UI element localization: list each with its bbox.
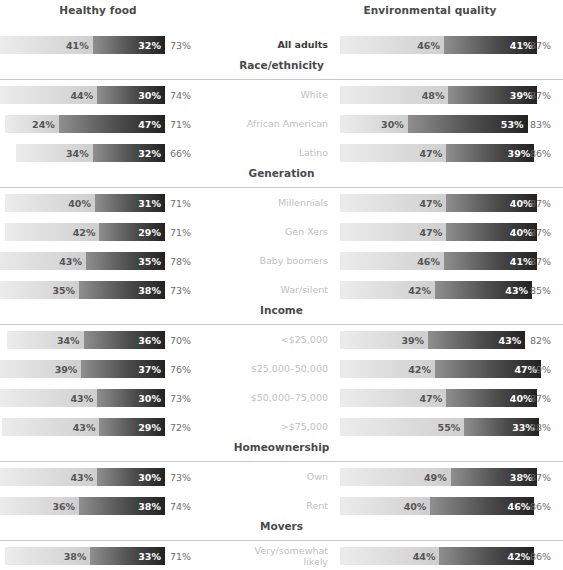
bar-segment-somewhat-important: 47% [340,144,446,162]
chart-section: Homeownership43%30%73%Own49%38%87%36%38%… [0,441,563,520]
bar-total-environmental-quality: 87% [530,223,551,241]
bar-segment-value: 43% [59,256,86,267]
chart-row: 43%30%73%Own49%38%87% [0,462,563,491]
bar-segment-very-important: 41% [444,252,537,270]
bar-segment-value: 30% [138,393,165,404]
bar-total-healthy-food: 73% [170,36,191,54]
bar-segment-value: 43% [73,422,100,433]
row-label: War/silent [196,275,328,304]
bar-total-healthy-food: 73% [170,468,191,486]
row-label: Rent [196,491,328,520]
bar-environmental-quality: 48%39% [340,86,537,104]
row-label: White [196,80,328,109]
bar-segment-value: 47% [419,148,446,159]
bar-segment-value: 36% [138,335,165,346]
chart-section: 41%32%73%All adults46%41%87% [0,24,563,59]
bar-total-healthy-food: 76% [170,360,191,378]
bar-total-healthy-food: 74% [170,497,191,515]
row-label: $25,000–50,000 [196,354,328,383]
bar-total-healthy-food: 66% [170,144,191,162]
bar-segment-very-important: 40% [446,223,536,241]
bar-healthy-food: 43%30% [0,389,165,407]
row-label: African American [196,109,328,138]
bar-total-environmental-quality: 82% [530,331,551,349]
bar-healthy-food: 34%32% [16,144,165,162]
chart-section: Income34%36%70%<$25,00039%43%82%39%37%76… [0,304,563,441]
bar-total-healthy-food: 73% [170,389,191,407]
bar-healthy-food: 41%32% [0,36,165,54]
bar-segment-value: 47% [419,393,446,404]
bar-environmental-quality: 47%40% [340,389,537,407]
panel-titles: Healthy food Environmental quality [0,0,563,24]
bar-segment-very-important: 30% [97,389,165,407]
row-label: <$25,000 [196,325,328,354]
bar-environmental-quality: 47%40% [340,223,537,241]
bar-healthy-food: 43%30% [0,468,165,486]
bar-segment-value: 29% [138,422,165,433]
bar-healthy-food: 36%38% [0,497,165,515]
bar-segment-somewhat-important: 43% [0,252,86,270]
bar-total-environmental-quality: 87% [530,36,551,54]
bar-segment-value: 37% [138,364,165,375]
bar-segment-somewhat-important: 48% [340,86,448,104]
row-label: All adults [196,30,328,59]
chart-section: Generation40%31%71%Millennials47%40%87%4… [0,167,563,304]
row-label: Very/somewhat likely [196,541,328,570]
bar-segment-value: 35% [138,256,165,267]
bar-segment-somewhat-important: 36% [0,497,79,515]
bar-segment-somewhat-important: 47% [340,194,446,212]
bar-segment-value: 44% [413,551,440,562]
bar-environmental-quality: 55%33% [340,418,539,436]
bar-total-environmental-quality: 86% [530,547,551,565]
bar-segment-somewhat-important: 44% [0,86,97,104]
bar-segment-very-important: 29% [99,223,165,241]
row-label: Baby boomers [196,246,328,275]
bar-segment-somewhat-important: 30% [340,115,408,133]
bar-total-healthy-food: 71% [170,115,191,133]
bar-segment-very-important: 35% [86,252,165,270]
chart-row: 35%38%73%War/silent42%43%85% [0,275,563,304]
chart-row: 34%32%66%Latino47%39%86% [0,138,563,167]
row-label: Millennials [196,188,328,217]
bar-segment-value: 31% [138,198,165,209]
bar-healthy-food: 43%29% [2,418,165,436]
bar-total-environmental-quality: 87% [530,252,551,270]
bar-total-environmental-quality: 88% [530,418,551,436]
bar-segment-value: 43% [70,393,97,404]
bar-segment-very-important: 53% [408,115,528,133]
bar-segment-value: 43% [70,472,97,483]
bar-segment-very-important: 40% [446,194,536,212]
bar-segment-value: 32% [138,40,165,51]
chart-row: 34%36%70%<$25,00039%43%82% [0,325,563,354]
bar-healthy-food: 44%30% [0,86,165,104]
bar-segment-very-important: 33% [464,418,539,436]
chart-section: Race/ethnicity44%30%74%White48%39%87%24%… [0,59,563,167]
bar-segment-value: 35% [52,285,79,296]
bar-total-healthy-food: 74% [170,86,191,104]
bar-total-healthy-food: 71% [170,194,191,212]
bar-total-environmental-quality: 86% [530,144,551,162]
bar-environmental-quality: 46%41% [340,36,537,54]
bar-segment-very-important: 32% [93,144,165,162]
bar-segment-value: 34% [57,335,84,346]
bar-healthy-food: 43%35% [0,252,165,270]
bar-segment-very-important: 33% [90,547,165,565]
bar-segment-very-important: 38% [79,497,165,515]
chart-row: 43%35%78%Baby boomers46%41%87% [0,246,563,275]
bar-segment-value: 46% [417,256,444,267]
row-label: $50,000–75,000 [196,383,328,412]
chart-section: Movers38%33%71%Very/somewhat likely44%42… [0,520,563,570]
bar-segment-value: 38% [138,501,165,512]
bar-segment-somewhat-important: 47% [340,223,446,241]
bar-segment-somewhat-important: 43% [0,468,97,486]
bar-segment-very-important: 43% [428,331,525,349]
bar-segment-value: 43% [499,335,526,346]
bar-segment-somewhat-important: 42% [340,281,435,299]
bar-environmental-quality: 47%39% [340,144,534,162]
bar-segment-somewhat-important: 47% [340,389,446,407]
bar-total-healthy-food: 72% [170,418,191,436]
bar-segment-very-important: 47% [435,360,541,378]
bar-environmental-quality: 44%42% [340,547,534,565]
section-header: Generation [0,167,563,188]
